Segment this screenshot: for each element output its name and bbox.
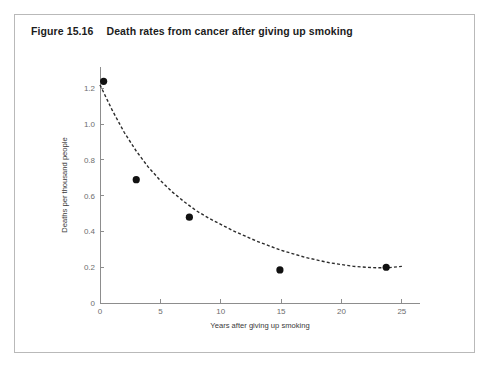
data-point-marker bbox=[276, 266, 283, 273]
data-point-marker bbox=[133, 176, 140, 183]
figure-frame: Figure 15.16Death rates from cancer afte… bbox=[14, 14, 475, 353]
x-tick-label: 20 bbox=[337, 307, 346, 316]
x-tick-label: 25 bbox=[397, 307, 406, 316]
chart-svg: 00.20.40.60.81.01.2 Deaths per thousand … bbox=[15, 15, 476, 354]
x-axis-title: Years after giving up smoking bbox=[210, 321, 309, 330]
y-tick-group: 00.20.40.60.81.01.2 bbox=[84, 84, 104, 308]
y-tick-label: 0.8 bbox=[84, 156, 96, 165]
y-axis: 00.20.40.60.81.01.2 Deaths per thousand … bbox=[60, 67, 104, 308]
chart-plot-area: 00.20.40.60.81.01.2 Deaths per thousand … bbox=[15, 15, 476, 354]
data-point-marker bbox=[186, 214, 193, 221]
x-tick-label: 15 bbox=[277, 307, 286, 316]
x-tick-label: 10 bbox=[216, 307, 225, 316]
x-axis: 0510152025 Years after giving up smoking bbox=[98, 299, 420, 330]
y-tick-label: 1.0 bbox=[84, 120, 96, 129]
y-tick-label: 0.6 bbox=[84, 192, 96, 201]
y-tick-label: 1.2 bbox=[84, 84, 96, 93]
data-point-marker bbox=[383, 264, 390, 271]
x-tick-group: 0510152025 bbox=[98, 299, 407, 316]
fitted-curve bbox=[100, 85, 402, 268]
x-tick-label: 0 bbox=[98, 307, 103, 316]
y-tick-label: 0 bbox=[91, 299, 96, 308]
data-points bbox=[100, 78, 390, 274]
y-tick-label: 0.4 bbox=[84, 227, 96, 236]
y-tick-label: 0.2 bbox=[84, 263, 96, 272]
x-tick-label: 5 bbox=[158, 307, 163, 316]
data-point-marker bbox=[100, 78, 107, 85]
y-axis-title: Deaths per thousand people bbox=[60, 137, 69, 232]
